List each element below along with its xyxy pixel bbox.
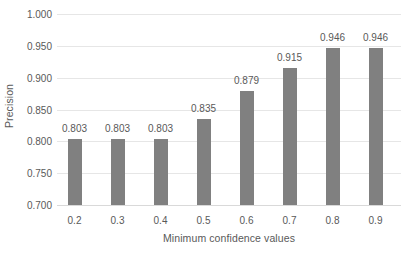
bar-value-label: 0.803 [105, 123, 130, 134]
bar[interactable] [369, 48, 383, 205]
bar[interactable] [68, 139, 82, 205]
y-axis-tick-labels: 1.0000.9500.9000.8500.8000.7500.700 [18, 0, 54, 212]
x-axis-tick-label: 0.4 [139, 215, 182, 226]
y-axis-tick-label: 0.850 [27, 104, 52, 115]
bar-value-label: 0.803 [62, 123, 87, 134]
x-axis-tick-labels: 0.20.30.40.50.60.70.80.9 [57, 212, 401, 232]
bar-group: 0.946 [354, 0, 397, 212]
x-axis-tick-label: 0.9 [354, 215, 397, 226]
y-axis-tick-label: 0.800 [27, 136, 52, 147]
bar-value-label: 0.946 [320, 32, 345, 43]
y-axis-title: Precision [0, 0, 18, 212]
bar-group: 0.879 [225, 0, 268, 212]
bar-value-label: 0.915 [277, 52, 302, 63]
x-axis-tick-label: 0.5 [182, 215, 225, 226]
x-axis-tick-label: 0.6 [225, 215, 268, 226]
y-axis-tick-label: 0.750 [27, 168, 52, 179]
bar[interactable] [154, 139, 168, 205]
bar-group: 0.803 [139, 0, 182, 212]
bar-group: 0.915 [268, 0, 311, 212]
x-axis-tick-label: 0.7 [268, 215, 311, 226]
bar[interactable] [111, 139, 125, 205]
bar-value-label: 0.946 [363, 32, 388, 43]
bar-group: 0.803 [96, 0, 139, 212]
x-axis-tick-label: 0.2 [53, 215, 96, 226]
y-axis-tick-label: 0.900 [27, 72, 52, 83]
x-axis-tick-label: 0.8 [311, 215, 354, 226]
bar[interactable] [283, 68, 297, 205]
bar[interactable] [326, 48, 340, 205]
bar-value-label: 0.803 [148, 123, 173, 134]
bar-value-label: 0.879 [234, 75, 259, 86]
plot-area: 0.8030.8030.8030.8350.8790.9150.9460.946 [57, 0, 401, 212]
x-axis-title: Minimum confidence values [57, 232, 401, 244]
precision-bar-chart: Precision 1.0000.9500.9000.8500.8000.750… [0, 0, 406, 255]
x-axis-tick-label: 0.3 [96, 215, 139, 226]
bar-group: 0.835 [182, 0, 225, 212]
bar-group: 0.946 [311, 0, 354, 212]
bar-value-label: 0.835 [191, 103, 216, 114]
y-axis-tick-label: 0.950 [27, 40, 52, 51]
bar-group: 0.803 [53, 0, 96, 212]
bar[interactable] [197, 119, 211, 205]
bars-layer: 0.8030.8030.8030.8350.8790.9150.9460.946 [57, 0, 401, 212]
bar[interactable] [240, 91, 254, 205]
y-axis-title-label: Precision [3, 84, 15, 128]
y-axis-tick-label: 1.000 [27, 9, 52, 20]
y-axis-tick-label: 0.700 [27, 200, 52, 211]
